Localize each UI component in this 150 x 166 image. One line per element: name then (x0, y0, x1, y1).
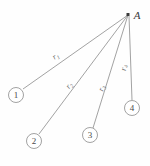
apex-label: A (133, 9, 141, 21)
segment-label-r4-subscript: 4 (123, 64, 129, 68)
segment-line-r1 (23, 15, 128, 89)
node-3: 3 (83, 128, 98, 143)
apex-point-marker (127, 13, 130, 16)
svg-text:r2: r2 (64, 80, 76, 91)
segment-label-r1: r1 (51, 50, 62, 62)
radial-distance-diagram: A 1 2 3 4 r1 (0, 0, 150, 166)
svg-text:r1: r1 (51, 50, 62, 62)
apex-point-group: A (127, 9, 141, 21)
segment-group (23, 15, 132, 134)
segment-line-r4 (129, 16, 132, 100)
segment-line-r2 (39, 15, 128, 134)
node-2-label: 2 (32, 136, 37, 146)
node-4-label: 4 (130, 103, 135, 113)
node-4: 4 (125, 101, 140, 116)
segment-label-r4: r4 (119, 64, 129, 71)
segment-label-r2: r2 (64, 80, 76, 91)
node-3-label: 3 (88, 130, 93, 140)
diagram-canvas: A 1 2 3 4 r1 (0, 0, 150, 166)
node-2: 2 (27, 134, 42, 149)
node-1-label: 1 (14, 90, 19, 100)
segment-label-group: r1 r2 r3 r4 (51, 50, 130, 92)
svg-text:r4: r4 (119, 64, 129, 71)
node-1: 1 (9, 88, 24, 103)
